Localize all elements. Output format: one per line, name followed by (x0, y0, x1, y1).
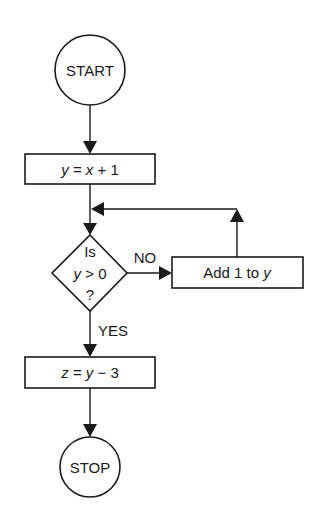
arrow-yes-branch: YES (83, 311, 128, 357)
arrow-assign-z-to-stop (83, 388, 97, 437)
increment-node: Add 1 to y (172, 257, 303, 288)
stop-label: STOP (70, 459, 111, 476)
stop-node: STOP (60, 437, 120, 497)
no-label: NO (134, 249, 157, 266)
start-node: START (55, 35, 125, 105)
start-label: START (66, 62, 114, 79)
arrow-head-icon (91, 202, 104, 216)
decision-line-1: Is (84, 243, 96, 260)
decision-line-2: y > 0 (73, 265, 107, 282)
increment-label: Add 1 to y (203, 264, 272, 281)
arrow-head-icon (83, 344, 97, 357)
arrow-head-icon (83, 424, 97, 437)
arrow-loop-back (91, 202, 244, 257)
assign-z-label: z = y − 3 (60, 364, 119, 381)
arrow-start-to-assign-y (83, 105, 97, 154)
assign-y-label: y = x + 1 (60, 161, 119, 178)
arrow-head-icon (83, 223, 97, 235)
assign-z-node: z = y − 3 (25, 357, 155, 388)
decision-node: Is y > 0 ? (52, 235, 127, 311)
yes-label: YES (98, 322, 128, 339)
flowchart: START y = x + 1 Is y > 0 ? NO Add 1 to y (0, 0, 326, 528)
arrow-head-icon (159, 266, 172, 280)
decision-line-3: ? (86, 286, 94, 303)
arrow-head-icon (230, 209, 244, 222)
assign-y-node: y = x + 1 (25, 154, 155, 184)
arrow-no-branch: NO (127, 249, 172, 280)
arrow-head-icon (83, 141, 97, 154)
